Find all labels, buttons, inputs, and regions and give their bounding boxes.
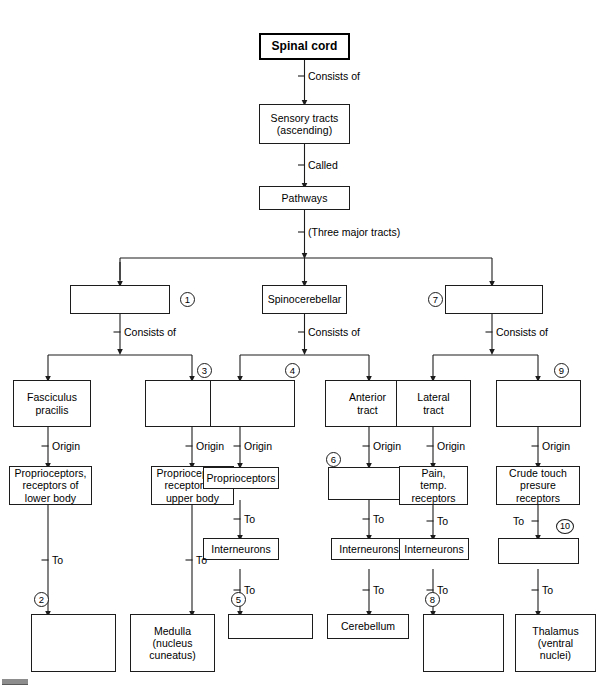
node-tract-left-blank[interactable] <box>70 285 170 314</box>
node-tract-spinocerebellar[interactable]: Spinocerebellar <box>262 285 347 314</box>
node-label: Spinocerebellar <box>268 293 342 305</box>
edge-label-to-col3-a: To <box>244 513 255 525</box>
node-col1-level5-blank[interactable] <box>31 614 116 672</box>
node-label: Cerebellum <box>341 620 395 632</box>
edge-label-to-col5-a: To <box>437 515 448 527</box>
edge-label-called: Called <box>308 159 338 171</box>
edge-label-to-col1: To <box>52 554 63 566</box>
edge-label-origin-col2: Origin <box>196 440 224 452</box>
blank-number-9: 9 <box>554 363 569 378</box>
node-interneurons-col3[interactable]: Interneurons <box>203 538 279 560</box>
node-label: Interneurons <box>211 543 271 555</box>
edge-label-consists-of-root: Consists of <box>308 70 360 82</box>
node-fasciculus-pracilis[interactable]: Fasciculuspracilis <box>13 380 91 427</box>
node-col4-level3-blank[interactable] <box>328 467 410 500</box>
edge-label-to-col2: To <box>196 554 207 566</box>
node-label: Proprioceptors,receptors oflower body <box>15 467 87 504</box>
node-lateral-tract[interactable]: Lateraltract <box>396 380 471 427</box>
node-col6-level2-blank[interactable] <box>496 380 581 427</box>
node-interneurons-col5[interactable]: Interneurons <box>399 538 469 560</box>
node-label: Fasciculuspracilis <box>27 391 77 415</box>
node-label: Pathways <box>282 192 328 204</box>
node-thalamus-ventral-nuclei[interactable]: Thalamus(ventralnuclei) <box>515 614 596 672</box>
node-label: Crude touchpresurereceptors <box>509 467 567 504</box>
node-proprioceptors[interactable]: Proprioceptors <box>203 467 279 489</box>
node-col5-level5-blank[interactable] <box>423 614 504 672</box>
node-pain-temp-receptors[interactable]: Pain,temp.receptors <box>399 466 468 505</box>
edge-label-consists-of-left: Consists of <box>124 326 176 338</box>
edge-label-consists-of-middle: Consists of <box>308 326 360 338</box>
page-corner-mark <box>2 679 28 685</box>
node-label: Proprioceptors <box>207 472 276 484</box>
node-col6-level4-blank[interactable] <box>498 538 579 564</box>
blank-number-5: 5 <box>231 592 246 607</box>
edge-label-origin-col4: Origin <box>373 440 401 452</box>
node-col3-level5-blank[interactable] <box>228 614 313 639</box>
node-sensory-tracts[interactable]: Sensory tracts(ascending) <box>259 104 350 144</box>
edge-label-origin-col5: Origin <box>437 440 465 452</box>
edge-label-to-col5-b: To <box>437 584 448 596</box>
node-pathways[interactable]: Pathways <box>259 186 350 210</box>
node-label: Sensory tracts(ascending) <box>271 112 339 136</box>
edge-label-to-col3-b: To <box>244 584 255 596</box>
node-col3-level2-blank[interactable] <box>210 380 295 427</box>
node-label: Lateraltract <box>417 391 449 415</box>
blank-number-2: 2 <box>34 592 49 607</box>
blank-number-1: 1 <box>180 292 195 307</box>
edge-label-three-major-tracts: (Three major tracts) <box>308 226 400 238</box>
node-label: Anteriortract <box>349 391 386 415</box>
edge-label-origin-col6: Origin <box>542 440 570 452</box>
blank-number-6: 6 <box>326 452 341 467</box>
node-label: Medulla(nucleuscuneatus) <box>149 625 196 662</box>
blank-number-10: 10 <box>556 519 574 534</box>
node-label: Interneurons <box>339 543 399 555</box>
node-label: Thalamus(ventralnuclei) <box>532 625 579 662</box>
node-crude-touch-pressure-receptors[interactable]: Crude touchpresurereceptors <box>496 466 580 505</box>
diagram-canvas: Spinal cord Sensory tracts(ascending) Pa… <box>0 0 609 691</box>
node-label: Pain,temp.receptors <box>411 467 455 504</box>
blank-number-8: 8 <box>425 592 440 607</box>
edge-label-to-col6-b: To <box>542 584 553 596</box>
blank-number-7: 7 <box>428 292 443 307</box>
node-proprioceptors-lower-body[interactable]: Proprioceptors,receptors oflower body <box>9 466 92 505</box>
node-cerebellum[interactable]: Cerebellum <box>327 614 409 639</box>
edge-label-to-col6-a: To <box>513 515 524 527</box>
edge-label-to-col4-a: To <box>373 513 384 525</box>
blank-number-3: 3 <box>197 363 212 378</box>
node-label: Interneurons <box>404 543 464 555</box>
node-label: Spinal cord <box>272 40 338 52</box>
edge-label-origin-col3: Origin <box>244 440 272 452</box>
edge-label-to-col4-b: To <box>373 584 384 596</box>
node-interneurons-col4[interactable]: Interneurons <box>331 538 407 560</box>
node-spinal-cord[interactable]: Spinal cord <box>259 33 350 60</box>
edge-label-origin-col1: Origin <box>52 440 80 452</box>
blank-number-4: 4 <box>285 363 300 378</box>
node-tract-right-blank[interactable] <box>445 285 543 314</box>
edge-label-consists-of-right: Consists of <box>496 326 548 338</box>
node-medulla-nucleus-cuneatus[interactable]: Medulla(nucleuscuneatus) <box>130 614 215 672</box>
